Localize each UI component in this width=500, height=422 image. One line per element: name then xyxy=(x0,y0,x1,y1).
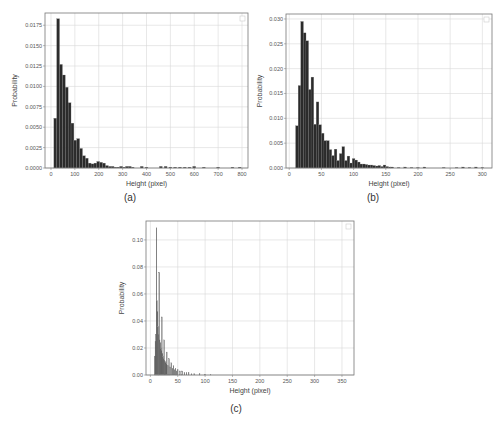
histogram-bar xyxy=(311,77,314,168)
histogram-bar xyxy=(383,165,386,168)
histogram-panel-a: 01002003004005006007008000.00000.00250.0… xyxy=(0,0,250,210)
histogram-bar xyxy=(176,371,177,375)
y-tick-label: 0.08 xyxy=(132,264,143,270)
histogram-bar xyxy=(316,102,319,168)
histogram-bar xyxy=(186,372,187,375)
histogram-bar xyxy=(94,163,97,168)
caption-c: (c) xyxy=(216,403,256,414)
plot-area xyxy=(146,221,354,375)
y-tick-label: 0.04 xyxy=(132,318,143,324)
x-tick-label: 150 xyxy=(228,378,237,384)
histogram-bar xyxy=(91,164,94,168)
y-tick-label: 0.02 xyxy=(132,345,143,351)
y-tick-label: 0.025 xyxy=(269,41,283,47)
y-tick-label: 0.0175 xyxy=(25,22,42,28)
x-tick-label: 200 xyxy=(255,378,264,384)
x-tick-label: 250 xyxy=(446,171,455,177)
x-tick-label: 300 xyxy=(118,171,127,177)
legend-box xyxy=(484,17,489,22)
x-tick-label: 0 xyxy=(288,171,291,177)
histogram-bar xyxy=(308,90,311,168)
histogram-bar xyxy=(347,156,350,168)
x-tick-label: 50 xyxy=(318,171,324,177)
x-axis-label: Height (pixel) xyxy=(229,387,270,395)
histogram-bar xyxy=(339,154,342,168)
histogram-bar xyxy=(168,366,169,375)
histogram-bar xyxy=(88,163,91,168)
legend-box xyxy=(346,224,351,229)
histogram-bar xyxy=(174,370,175,375)
histogram-bar xyxy=(355,160,358,168)
histogram-bar xyxy=(171,363,172,375)
histogram-bar xyxy=(180,371,181,375)
y-tick-label: 0.000 xyxy=(269,165,283,171)
histogram-bar xyxy=(324,141,327,168)
x-tick-label: 200 xyxy=(94,171,103,177)
histogram-bar xyxy=(357,162,360,168)
histogram-bar xyxy=(303,33,306,168)
histogram-bar xyxy=(337,161,340,168)
y-tick-label: 0.015 xyxy=(269,90,283,96)
histogram-bar xyxy=(345,161,348,168)
histogram-bar xyxy=(352,159,355,168)
histogram-chart-c: 0501001502002503003500.000.020.040.060.0… xyxy=(100,210,380,400)
x-tick-label: 50 xyxy=(175,378,181,384)
y-tick-label: 0.06 xyxy=(132,291,143,297)
histogram-bar xyxy=(85,158,88,168)
y-axis-label: Probability xyxy=(118,281,126,314)
x-tick-label: 0 xyxy=(49,171,52,177)
histogram-bar xyxy=(326,141,329,168)
histogram-bar xyxy=(62,75,65,168)
y-tick-label: 0.030 xyxy=(269,16,283,22)
histogram-bar xyxy=(363,164,366,168)
x-tick-label: 100 xyxy=(349,171,358,177)
x-axis-label: Height (pixel) xyxy=(368,180,409,188)
y-tick-label: 0.020 xyxy=(269,66,283,72)
histogram-chart-b: 0501001502002503000.0000.0050.0100.0150.… xyxy=(250,0,500,190)
x-tick-label: 150 xyxy=(381,171,390,177)
x-tick-label: 200 xyxy=(413,171,422,177)
histogram-bar xyxy=(68,103,71,168)
histogram-chart-a: 01002003004005006007008000.00000.00250.0… xyxy=(0,0,250,190)
x-axis-label: Height (pixel) xyxy=(126,180,167,188)
caption-a: (a) xyxy=(110,192,150,203)
histogram-bar xyxy=(368,165,371,168)
histogram-bar xyxy=(182,371,183,375)
histogram-bar xyxy=(306,41,309,168)
histogram-bar xyxy=(169,359,170,375)
x-tick-label: 800 xyxy=(237,171,246,177)
histogram-bar xyxy=(365,165,368,168)
histogram-bar xyxy=(170,367,171,375)
y-tick-label: 0.0075 xyxy=(25,104,42,110)
x-tick-label: 100 xyxy=(201,378,210,384)
histogram-bar xyxy=(329,150,332,168)
x-tick-label: 300 xyxy=(478,171,487,177)
caption-b: (b) xyxy=(353,192,393,203)
histogram-bar xyxy=(103,163,106,168)
histogram-bar xyxy=(71,123,74,168)
histogram-bar xyxy=(74,140,77,168)
histogram-bar xyxy=(301,21,304,168)
histogram-bar xyxy=(177,370,178,375)
x-tick-label: 700 xyxy=(214,171,223,177)
histogram-bar xyxy=(60,64,63,168)
x-tick-label: 250 xyxy=(283,378,292,384)
histogram-bar xyxy=(175,368,176,375)
histogram-bar xyxy=(321,133,324,168)
histogram-bar xyxy=(173,366,174,375)
histogram-bar xyxy=(332,156,335,168)
histogram-bar xyxy=(350,163,353,168)
histogram-bar xyxy=(184,372,185,375)
y-tick-label: 0.0000 xyxy=(25,165,42,171)
histogram-bar xyxy=(54,118,57,168)
histogram-bar xyxy=(80,148,83,168)
y-tick-label: 0.0025 xyxy=(25,145,42,151)
y-axis-label: Probability xyxy=(256,74,264,107)
x-tick-label: 500 xyxy=(166,171,175,177)
y-tick-label: 0.0050 xyxy=(25,124,42,130)
histogram-panel-c: 0501001502002503003500.000.020.040.060.0… xyxy=(100,210,380,422)
x-tick-label: 350 xyxy=(337,378,346,384)
histogram-bar xyxy=(65,87,68,168)
histogram-bar xyxy=(77,139,80,168)
y-axis-label: Probability xyxy=(11,74,19,107)
